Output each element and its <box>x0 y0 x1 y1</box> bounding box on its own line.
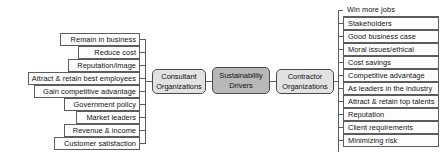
node-sustainability-drivers[interactable]: Sustainability Drivers <box>212 67 270 94</box>
list-item[interactable]: Moral issues/ethical <box>343 43 439 56</box>
consultant-stub <box>140 104 145 105</box>
list-item[interactable]: As leaders in the industry <box>343 82 439 95</box>
node-line-2: Organizations <box>282 82 328 92</box>
consultant-stub <box>140 65 145 66</box>
list-item[interactable]: Reputation <box>343 108 439 121</box>
consultant-hub-link <box>145 81 152 82</box>
list-item[interactable]: Customer satisfaction <box>54 137 140 150</box>
list-item[interactable]: Minimizing risk <box>343 134 439 147</box>
list-item[interactable]: Revenue & income <box>64 124 140 137</box>
consultant-stub <box>140 117 145 118</box>
list-item[interactable]: Government policy <box>64 98 140 111</box>
consultant-stub <box>140 78 145 79</box>
sustainability-drivers-diagram: Remain in business Reduce cost Reputatio… <box>0 0 446 164</box>
node-contractor-organizations[interactable]: Contractor Organizations <box>276 69 334 94</box>
node-line-2: Organizations <box>156 82 202 92</box>
node-line-2: Drivers <box>219 81 263 91</box>
list-item[interactable]: Stakeholders <box>343 17 439 30</box>
consultant-stub <box>140 52 145 53</box>
node-line-1: Sustainability <box>219 71 263 81</box>
list-item[interactable]: Reduce cost <box>78 46 140 59</box>
consultant-stub <box>140 130 145 131</box>
consultant-stub <box>140 143 145 144</box>
list-item[interactable]: Cost savings <box>343 56 439 69</box>
list-item[interactable]: Client requirements <box>343 121 439 134</box>
list-item[interactable]: Attract & retain top talents <box>343 95 439 108</box>
list-item[interactable]: Win more jobs <box>343 4 439 17</box>
list-item[interactable]: Competitive advantage <box>343 69 439 82</box>
node-line-1: Consultant <box>156 72 202 82</box>
list-item[interactable]: Market leaders <box>76 111 140 124</box>
list-item[interactable]: Attract & retain best employees <box>28 72 140 85</box>
list-item[interactable]: Gain competitive advantage <box>34 85 140 98</box>
consultant-stub <box>140 39 145 40</box>
consultant-stub <box>140 91 145 92</box>
list-item[interactable]: Reputation/image <box>68 59 140 72</box>
list-item[interactable]: Remain in business <box>60 33 140 46</box>
list-item[interactable]: Good business case <box>343 30 439 43</box>
consultant-bracket-spine <box>145 39 146 144</box>
contractor-bracket-spine <box>338 10 339 152</box>
node-line-1: Contractor <box>282 72 328 82</box>
node-consultant-organizations[interactable]: Consultant Organizations <box>152 69 206 94</box>
